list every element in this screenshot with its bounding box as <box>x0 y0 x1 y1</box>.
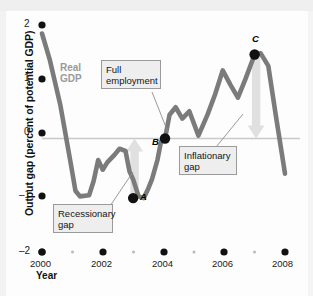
xtick-dot-2008 <box>281 248 288 255</box>
callout-full-employment: Full employment <box>101 60 161 89</box>
x-tick-label-2006: 2006 <box>212 258 233 269</box>
real-gdp-line <box>42 34 285 199</box>
data-point-label-c: C <box>252 33 259 44</box>
xtick-dot-2007 <box>253 251 256 254</box>
chart-figure: Output gap (percent of potential GDP) 2 … <box>0 0 313 296</box>
xtick-dot-2000 <box>38 248 45 255</box>
y-tick-label-m1: –1 <box>19 189 30 200</box>
ytick-dot-0 <box>38 129 45 136</box>
callout-recessionary-gap: Recessionary gap <box>53 204 113 233</box>
data-point-b[interactable] <box>160 133 170 143</box>
chart-canvas <box>0 0 313 296</box>
xtick-dot-2002 <box>99 248 106 255</box>
callout-inflationary-gap-line2: gap <box>184 161 232 172</box>
xtick-dot-2006 <box>220 248 227 255</box>
x-tick-label-2000: 2000 <box>30 258 51 269</box>
x-axis-title: Year <box>36 270 57 281</box>
xtick-dot-2001 <box>71 251 74 254</box>
callout-inflationary-gap: Inflationary gap <box>179 146 237 175</box>
x-tick-label-2002: 2002 <box>91 258 112 269</box>
data-point-label-b: B <box>152 136 159 147</box>
data-point-a[interactable] <box>128 193 138 203</box>
y-tick-label-m2: –2 <box>19 245 30 256</box>
series-label-real-gdp: Real GDP <box>60 62 82 84</box>
series-label-line1: Real <box>60 62 82 73</box>
ytick-dot-1 <box>38 75 45 82</box>
series-label-line2: GDP <box>60 73 82 84</box>
callout-full-employment-line2: employment <box>106 75 156 86</box>
callout-full-employment-line1: Full <box>106 64 156 75</box>
x-tick-label-2008: 2008 <box>272 258 293 269</box>
xtick-dot-2004 <box>160 248 167 255</box>
x-tick-label-2004: 2004 <box>152 258 173 269</box>
callout-recessionary-gap-line2: gap <box>58 219 108 230</box>
callout-recessionary-gap-line1: Recessionary <box>58 208 108 219</box>
ytick-dot-m1 <box>38 192 45 199</box>
xtick-dot-2003 <box>132 251 135 254</box>
y-tick-label-2: 2 <box>24 18 30 29</box>
data-point-c[interactable] <box>249 49 259 59</box>
y-tick-label-0: 0 <box>24 126 30 137</box>
xtick-dot-2005 <box>193 251 196 254</box>
callout-inflationary-gap-line1: Inflationary <box>184 150 232 161</box>
y-tick-label-1: 1 <box>24 72 30 83</box>
ytick-dot-2 <box>38 21 45 28</box>
full-employment-leader-line <box>152 92 168 131</box>
data-point-label-a: A <box>140 191 147 202</box>
